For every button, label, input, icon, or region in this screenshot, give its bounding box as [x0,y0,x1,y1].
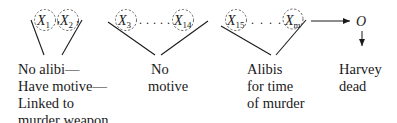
ellipsis-2: . . . . . [139,13,171,27]
group-3-variables: X15 . . . . Xm [221,9,306,55]
label-line: motive [148,78,188,95]
label-line: Linked to [18,95,109,112]
ellipsis-3: . . . . [251,13,283,27]
group-1-label: No alibi— Have motive— Linked to murder … [18,61,109,123]
group-2-label: No motive [148,61,188,95]
variable-xm: Xm [284,13,301,30]
variable-x3: X3 [117,13,132,30]
group-1-variables: X1 , X2 , [31,10,82,56]
label-line: of murder [247,95,305,112]
outcome-symbol: O [356,14,366,29]
label-line: Harvey [339,61,382,78]
variable-x2: X2 [59,13,73,30]
label-line: No alibi— [18,61,109,78]
label-line: murder weapon [18,112,109,123]
label-line: No [148,61,188,78]
group-3-label: Alibis for time of murder [247,61,305,112]
group-2-variables: X3 . . . . . X14 [108,10,208,56]
bracket-line-left-3 [221,26,271,55]
variable-x14: X14 [173,13,192,30]
comma-2: , [76,11,80,26]
label-line: dead [339,78,382,95]
variable-x15: X15 [226,13,245,30]
outcome-node: O [311,14,366,46]
label-line: Have motive— [18,78,109,95]
label-line: Alibis [247,61,305,78]
variable-x1: X1 [36,13,50,30]
label-line: for time [247,78,305,95]
outcome-label: Harvey dead [339,61,382,95]
